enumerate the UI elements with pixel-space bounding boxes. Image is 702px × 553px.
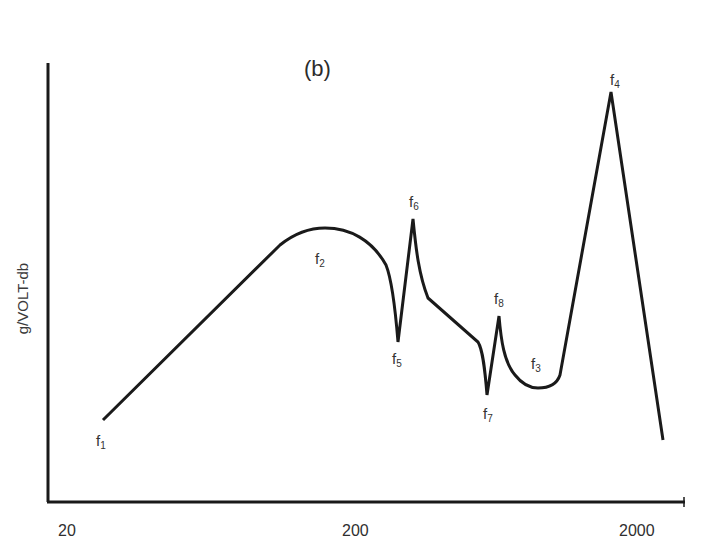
x-tick-2000: 2000 [619, 522, 655, 540]
label-f3: f3 [531, 355, 541, 374]
label-f4: f4 [610, 71, 620, 90]
label-f5: f5 [392, 350, 402, 369]
chart-area: (b) g/VOLT-db 20 200 2000 f1 f2 f3 f4 f5… [0, 0, 702, 553]
label-f1: f1 [96, 432, 106, 451]
label-f2: f2 [315, 250, 325, 269]
y-axis-label: g/VOLT-db [14, 259, 31, 339]
response-curve [103, 92, 663, 440]
label-f6: f6 [409, 193, 419, 212]
x-tick-200: 200 [342, 522, 369, 540]
label-f7: f7 [483, 405, 493, 424]
x-tick-20: 20 [58, 522, 76, 540]
label-f8: f8 [494, 290, 504, 309]
chart-title: (b) [304, 56, 331, 82]
chart-svg [0, 0, 702, 553]
